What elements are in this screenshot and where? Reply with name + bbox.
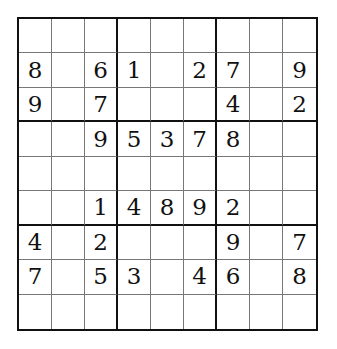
given-cell: 5 (118, 122, 151, 156)
given-cell: 7 (85, 88, 118, 122)
given-cell: 2 (283, 88, 316, 122)
empty-cell[interactable] (151, 295, 184, 329)
empty-cell[interactable] (151, 19, 184, 53)
empty-cell[interactable] (52, 88, 85, 122)
given-cell: 2 (85, 226, 118, 260)
empty-cell[interactable] (250, 53, 283, 87)
empty-cell[interactable] (250, 122, 283, 156)
empty-cell[interactable] (118, 295, 151, 329)
empty-cell[interactable] (250, 19, 283, 53)
sudoku-board: 861279974295378148924297753468 (17, 17, 318, 331)
empty-cell[interactable] (52, 260, 85, 294)
empty-cell[interactable] (250, 191, 283, 225)
empty-cell[interactable] (184, 88, 217, 122)
given-cell: 8 (19, 53, 52, 87)
empty-cell[interactable] (217, 19, 250, 53)
given-cell: 9 (283, 53, 316, 87)
empty-cell[interactable] (19, 295, 52, 329)
empty-cell[interactable] (151, 88, 184, 122)
given-cell: 4 (217, 88, 250, 122)
given-cell: 1 (85, 191, 118, 225)
given-cell: 7 (19, 260, 52, 294)
empty-cell[interactable] (283, 295, 316, 329)
empty-cell[interactable] (217, 157, 250, 191)
given-cell: 3 (118, 260, 151, 294)
empty-cell[interactable] (250, 260, 283, 294)
given-cell: 6 (217, 260, 250, 294)
empty-cell[interactable] (118, 226, 151, 260)
given-cell: 6 (85, 53, 118, 87)
empty-cell[interactable] (52, 53, 85, 87)
empty-cell[interactable] (151, 260, 184, 294)
given-cell: 9 (184, 191, 217, 225)
empty-cell[interactable] (19, 122, 52, 156)
empty-cell[interactable] (250, 295, 283, 329)
empty-cell[interactable] (283, 157, 316, 191)
empty-cell[interactable] (118, 19, 151, 53)
given-cell: 4 (19, 226, 52, 260)
empty-cell[interactable] (19, 19, 52, 53)
empty-cell[interactable] (283, 191, 316, 225)
given-cell: 8 (151, 191, 184, 225)
given-cell: 7 (184, 122, 217, 156)
given-cell: 2 (184, 53, 217, 87)
empty-cell[interactable] (118, 88, 151, 122)
empty-cell[interactable] (250, 157, 283, 191)
empty-cell[interactable] (151, 226, 184, 260)
empty-cell[interactable] (85, 295, 118, 329)
empty-cell[interactable] (184, 226, 217, 260)
empty-cell[interactable] (52, 157, 85, 191)
empty-cell[interactable] (283, 19, 316, 53)
empty-cell[interactable] (52, 226, 85, 260)
given-cell: 8 (217, 122, 250, 156)
given-cell: 8 (283, 260, 316, 294)
given-cell: 4 (184, 260, 217, 294)
empty-cell[interactable] (184, 157, 217, 191)
given-cell: 1 (118, 53, 151, 87)
empty-cell[interactable] (52, 19, 85, 53)
empty-cell[interactable] (19, 157, 52, 191)
empty-cell[interactable] (184, 19, 217, 53)
given-cell: 2 (217, 191, 250, 225)
empty-cell[interactable] (184, 295, 217, 329)
empty-cell[interactable] (283, 122, 316, 156)
empty-cell[interactable] (151, 157, 184, 191)
empty-cell[interactable] (85, 157, 118, 191)
empty-cell[interactable] (250, 226, 283, 260)
empty-cell[interactable] (250, 88, 283, 122)
empty-cell[interactable] (52, 295, 85, 329)
given-cell: 5 (85, 260, 118, 294)
empty-cell[interactable] (19, 191, 52, 225)
empty-cell[interactable] (217, 295, 250, 329)
given-cell: 7 (217, 53, 250, 87)
empty-cell[interactable] (151, 53, 184, 87)
given-cell: 3 (151, 122, 184, 156)
given-cell: 9 (19, 88, 52, 122)
given-cell: 4 (118, 191, 151, 225)
empty-cell[interactable] (85, 19, 118, 53)
given-cell: 7 (283, 226, 316, 260)
empty-cell[interactable] (118, 157, 151, 191)
given-cell: 9 (85, 122, 118, 156)
empty-cell[interactable] (52, 122, 85, 156)
empty-cell[interactable] (52, 191, 85, 225)
given-cell: 9 (217, 226, 250, 260)
